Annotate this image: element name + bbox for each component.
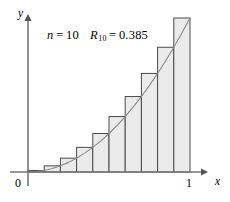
x-axis-label: x: [215, 176, 220, 188]
y-axis-label: y: [18, 8, 23, 20]
riemann-bar: [174, 18, 190, 172]
riemann-bar: [141, 73, 157, 172]
n-value: 10: [66, 28, 79, 42]
riemann-bar: [158, 47, 174, 172]
r-symbol: R: [90, 28, 98, 42]
origin-label: 0: [15, 177, 21, 189]
riemann-sum-figure: n = 10R10 = 0.385 y x 0 1: [0, 0, 230, 202]
y-axis-arrowhead: [24, 14, 31, 21]
riemann-bar: [125, 97, 141, 172]
r-subscript: 10: [98, 34, 106, 43]
x-tick-label-one: 1: [186, 177, 192, 189]
r-value: 0.385: [119, 28, 148, 42]
riemann-bar: [93, 134, 109, 173]
riemann-bar: [77, 147, 93, 172]
riemann-annotation: n = 10R10 = 0.385: [47, 29, 148, 42]
x-axis-arrowhead: [201, 168, 208, 175]
